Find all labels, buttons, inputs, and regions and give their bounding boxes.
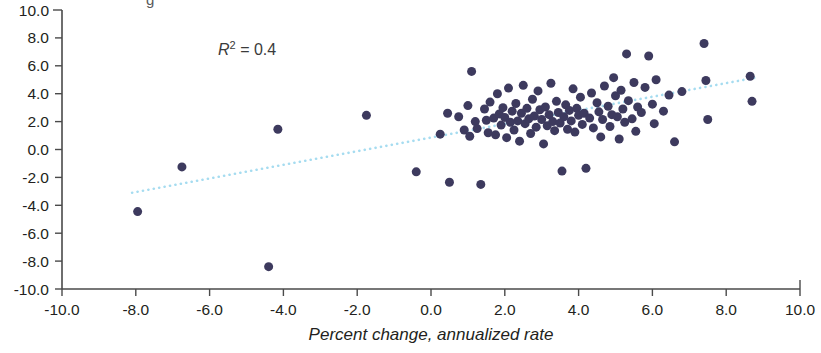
y-tick-label: 6.0 [27, 57, 49, 74]
axes [53, 10, 800, 296]
scatter-point [486, 98, 495, 107]
scatter-point [659, 107, 668, 116]
scatter-point [570, 128, 579, 137]
scatter-point [641, 83, 650, 92]
scatter-point [604, 102, 613, 111]
y-tick-label: -6.0 [22, 225, 49, 242]
scatter-point [177, 162, 186, 171]
y-tick-label: -2.0 [22, 169, 49, 186]
scatter-point [445, 178, 454, 187]
y-tick-label: 4.0 [27, 85, 49, 102]
scatter-point [497, 121, 506, 130]
y-tick-label: 8.0 [27, 29, 49, 46]
scatter-point [594, 107, 603, 116]
scatter-point [613, 112, 622, 121]
scatter-point [631, 127, 640, 136]
scatter-point [264, 262, 273, 271]
scatter-point [600, 82, 609, 91]
scatter-point [467, 67, 476, 76]
scatter-point [133, 207, 142, 216]
scatter-point [546, 79, 555, 88]
x-tick-label: 10.0 [785, 301, 816, 318]
scatter-point [596, 132, 605, 141]
scatter-point [504, 84, 513, 93]
scatter-point [609, 73, 618, 82]
scatter-point [541, 102, 550, 111]
scatter-point [480, 105, 489, 114]
scatter-point [534, 86, 543, 95]
scatter-point [465, 132, 474, 141]
x-tick-label: -10.0 [44, 301, 80, 318]
scatter-point [622, 49, 631, 58]
scatter-point [578, 120, 587, 129]
scatter-point [615, 135, 624, 144]
scatter-point [273, 125, 282, 134]
x-tick-label: -6.0 [196, 301, 223, 318]
scatter-point [598, 115, 607, 124]
scatter-point [532, 123, 541, 132]
x-axis-title: Percent change, annualized rate [309, 325, 554, 344]
scatter-point [587, 89, 596, 98]
scatter-point [476, 180, 485, 189]
tick-labels: 10.08.06.04.02.00.0-2.0-4.0-6.0-8.0-10.0… [14, 2, 816, 319]
x-tick-label: 0.0 [420, 301, 442, 318]
scatter-point [569, 84, 578, 93]
scatter-point [589, 123, 598, 132]
y-tick-label: 10.0 [19, 2, 50, 19]
scatter-point [550, 126, 559, 135]
scatter-point [463, 101, 472, 110]
scatter-point [502, 133, 511, 142]
scatter-point [585, 114, 594, 123]
scatter-point [443, 109, 452, 118]
scatter-point [628, 114, 637, 123]
scatter-point [650, 119, 659, 128]
x-tick-label: 2.0 [494, 301, 516, 318]
scatter-point [593, 98, 602, 107]
scatter-point [652, 75, 661, 84]
x-tick-label: -2.0 [344, 301, 371, 318]
scatter-point [498, 103, 507, 112]
y-tick-label: 2.0 [27, 113, 49, 130]
scatter-point [473, 124, 482, 133]
scatter-point [567, 116, 576, 125]
scatter-point [701, 76, 710, 85]
scatter-point [362, 111, 371, 120]
scatter-point [454, 112, 463, 121]
x-tick-label: -8.0 [122, 301, 149, 318]
scatter-point [558, 167, 567, 176]
cropped-title-fragment: g [146, 0, 154, 8]
y-tick-label: -10.0 [14, 281, 50, 298]
scatter-point [644, 52, 653, 61]
scatter-point [522, 104, 531, 113]
r-squared-annotation: R2 = 0.4 [218, 39, 276, 58]
x-tick-label: 8.0 [715, 301, 737, 318]
scatter-point [605, 122, 614, 131]
scatter-point [539, 139, 548, 148]
scatter-point [576, 93, 585, 102]
chart-canvas: 10.08.06.04.02.00.0-2.0-4.0-6.0-8.0-10.0… [0, 0, 821, 353]
y-tick-label: -8.0 [22, 253, 49, 270]
scatter-point [703, 115, 712, 124]
scatter-point [629, 78, 638, 87]
scatter-point [412, 167, 421, 176]
scatter-point [511, 99, 520, 108]
scatter-point [581, 164, 590, 173]
scatter-point [748, 97, 757, 106]
scatter-point [624, 96, 633, 105]
scatter-point [436, 130, 445, 139]
scatter-point [670, 137, 679, 146]
scatter-point [700, 39, 709, 48]
y-tick-label: 0.0 [27, 141, 49, 158]
scatter-point [510, 125, 519, 134]
scatter-point [637, 108, 646, 117]
scatter-point [552, 97, 561, 106]
scatter-point [515, 137, 524, 146]
scatter-point [493, 89, 502, 98]
x-tick-label: 4.0 [568, 301, 590, 318]
x-tick-label: 6.0 [642, 301, 664, 318]
scatter-point [665, 91, 674, 100]
scatter-point [746, 72, 755, 81]
data-points [133, 39, 756, 271]
scatter-point [519, 81, 528, 90]
scatter-point [491, 130, 500, 139]
